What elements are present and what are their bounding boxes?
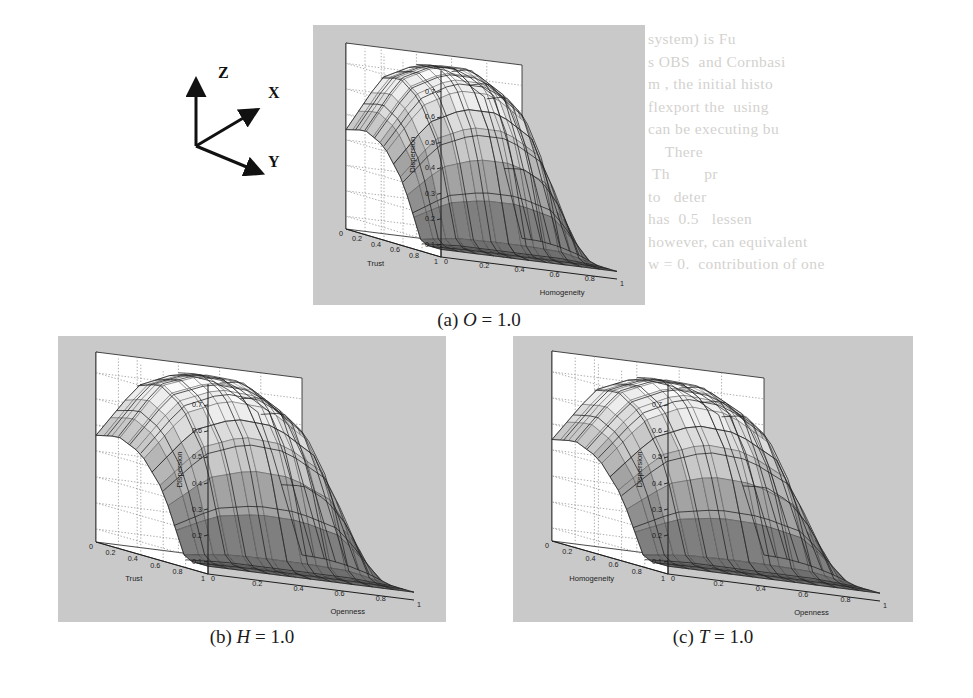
svg-text:0.8: 0.8 [632,567,642,576]
caption-c-var: T [699,626,710,647]
svg-text:0.4: 0.4 [652,479,662,488]
svg-text:0.6: 0.6 [798,590,808,599]
svg-text:Dispersion: Dispersion [635,452,644,488]
svg-text:0.8: 0.8 [585,274,595,283]
svg-text:0.2: 0.2 [479,261,489,270]
svg-text:Trust: Trust [367,259,385,268]
svg-text:0.7: 0.7 [425,87,435,96]
svg-text:0.6: 0.6 [192,426,202,435]
svg-text:0.2: 0.2 [192,531,202,540]
caption-a-var: O [463,309,477,330]
svg-text:0.2: 0.2 [252,579,262,588]
triad-label-z: Z [218,64,229,82]
caption-b: (b) H = 1.0 [58,626,446,648]
svg-text:0.4: 0.4 [192,479,202,488]
panel-b: 0.10.20.30.40.50.60.700.20.40.60.81Trust… [58,336,446,622]
svg-text:0.2: 0.2 [652,531,662,540]
svg-text:1: 1 [417,600,421,609]
svg-text:0: 0 [339,229,343,238]
caption-c: (c) T = 1.0 [513,626,913,648]
svg-text:Trust: Trust [125,574,143,583]
svg-text:1: 1 [883,601,887,610]
svg-text:0.5: 0.5 [652,452,662,461]
svg-text:0.3: 0.3 [425,189,435,198]
svg-text:0.4: 0.4 [756,584,766,593]
caption-c-prefix: (c) [673,626,694,647]
svg-text:0.7: 0.7 [192,400,202,409]
svg-text:0.2: 0.2 [713,579,723,588]
svg-text:0.8: 0.8 [173,567,183,576]
svg-text:0.8: 0.8 [376,594,386,603]
caption-a: (a) O = 1.0 [313,309,645,331]
svg-text:0: 0 [444,257,448,266]
svg-text:0.4: 0.4 [514,265,524,274]
svg-text:0.5: 0.5 [425,138,435,147]
svg-text:0.3: 0.3 [652,505,662,514]
axis-triad-arrows [182,58,310,176]
axis-orientation-key: Z X Y [182,58,310,176]
caption-b-var: H [237,626,251,647]
svg-text:0.6: 0.6 [425,112,435,121]
svg-text:0.6: 0.6 [150,561,160,570]
panel-c: 0.10.20.30.40.50.60.700.20.40.60.81Homog… [513,336,913,622]
caption-c-eq: = 1.0 [709,626,753,647]
svg-text:1: 1 [201,574,205,583]
svg-text:0.4: 0.4 [128,554,138,563]
svg-text:0.4: 0.4 [585,554,595,563]
svg-text:0: 0 [211,574,215,583]
svg-text:0.1: 0.1 [425,240,435,249]
svg-text:0.2: 0.2 [425,214,435,223]
svg-text:Homogeneity: Homogeneity [540,288,585,297]
svg-text:0.6: 0.6 [390,245,400,254]
svg-text:0.1: 0.1 [192,557,202,566]
svg-text:1: 1 [661,574,665,583]
svg-text:0.6: 0.6 [609,560,619,569]
svg-text:0: 0 [671,574,675,583]
background-page-text-right: system) is Fu s OBS and Cornbasi m , the… [648,28,968,276]
svg-text:0: 0 [89,542,93,551]
svg-text:0.6: 0.6 [550,270,560,279]
svg-text:0.4: 0.4 [425,163,435,172]
caption-b-eq: = 1.0 [250,626,294,647]
caption-b-prefix: (b) [210,626,232,647]
plot-b-surface[interactable]: 0.10.20.30.40.50.60.700.20.40.60.81Trust… [58,336,446,622]
svg-text:0.3: 0.3 [192,505,202,514]
plot-c-surface[interactable]: 0.10.20.30.40.50.60.700.20.40.60.81Homog… [513,336,913,622]
caption-a-prefix: (a) [437,309,458,330]
svg-text:1: 1 [620,279,624,288]
svg-text:0.2: 0.2 [562,547,572,556]
svg-text:Openness: Openness [330,607,365,616]
svg-text:0.2: 0.2 [352,234,362,243]
svg-text:0.6: 0.6 [652,426,662,435]
svg-text:0.4: 0.4 [371,240,381,249]
svg-text:Dispersion: Dispersion [175,452,184,488]
panel-a: 0.10.20.30.40.50.60.700.20.40.60.81Trust… [313,25,645,305]
caption-a-eq: = 1.0 [477,309,521,330]
svg-text:0.6: 0.6 [335,589,345,598]
triad-label-y: Y [268,153,280,171]
svg-text:0.1: 0.1 [652,557,662,566]
svg-text:Homogeneity: Homogeneity [569,574,614,583]
svg-text:0.7: 0.7 [652,400,662,409]
svg-text:Dispersion: Dispersion [408,137,417,173]
svg-text:1: 1 [434,257,438,266]
triad-label-x: X [268,84,280,102]
svg-text:0.8: 0.8 [409,251,419,260]
svg-text:0.5: 0.5 [192,452,202,461]
svg-text:0.2: 0.2 [105,548,115,557]
svg-text:Openness: Openness [794,608,829,617]
plot-a-surface[interactable]: 0.10.20.30.40.50.60.700.20.40.60.81Trust… [313,25,645,305]
svg-text:0.4: 0.4 [293,584,303,593]
svg-text:0: 0 [545,541,549,550]
svg-text:0.8: 0.8 [841,595,851,604]
